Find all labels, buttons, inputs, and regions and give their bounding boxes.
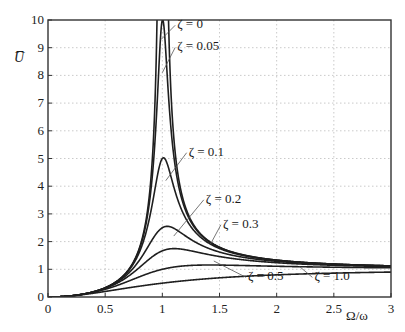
curve-label: ζ = 0.3 — [223, 216, 258, 231]
label-pointer — [300, 267, 313, 278]
curve-label: ζ = 0 — [177, 16, 203, 31]
y-tick-label: 6 — [38, 123, 45, 138]
x-axis-title: Ω/ω — [346, 308, 368, 323]
y-tick-label: 4 — [38, 178, 45, 193]
y-tick-label: 7 — [38, 95, 45, 110]
response-chart: 00.511.522.53012345678910 ζ = 0ζ = 0.05ζ… — [0, 0, 405, 332]
x-tick-label: 1.5 — [211, 301, 227, 316]
y-tick-label: 8 — [38, 67, 45, 82]
x-tick-label: 0 — [45, 301, 52, 316]
x-tick-label: 2 — [273, 301, 280, 316]
y-tick-label: 3 — [38, 206, 45, 221]
label-pointers — [161, 25, 312, 277]
curve-label: ζ = 0.05 — [177, 38, 219, 53]
label-pointer — [174, 200, 204, 236]
y-axis-title: U̅ — [14, 50, 25, 65]
y-tick-label: 0 — [38, 289, 45, 304]
curve-label: ζ = 0.5 — [248, 268, 283, 283]
y-tick-label: 9 — [38, 40, 45, 55]
curve-labels: ζ = 0ζ = 0.05ζ = 0.1ζ = 0.2ζ = 0.3ζ = 0.… — [177, 16, 350, 283]
y-tick-label: 2 — [38, 234, 45, 249]
curve-label: ζ = 1.0 — [314, 268, 349, 283]
curve-label: ζ = 0.1 — [189, 144, 224, 159]
x-tick-label: 0.5 — [97, 301, 113, 316]
x-tick-label: 1 — [159, 301, 166, 316]
x-tick-label: 2.5 — [326, 301, 342, 316]
y-tick-label: 5 — [38, 151, 45, 166]
y-tick-label: 1 — [38, 261, 45, 276]
curve-label: ζ = 0.2 — [206, 191, 241, 206]
y-tick-label: 10 — [31, 12, 44, 27]
x-tick-label: 3 — [388, 301, 395, 316]
